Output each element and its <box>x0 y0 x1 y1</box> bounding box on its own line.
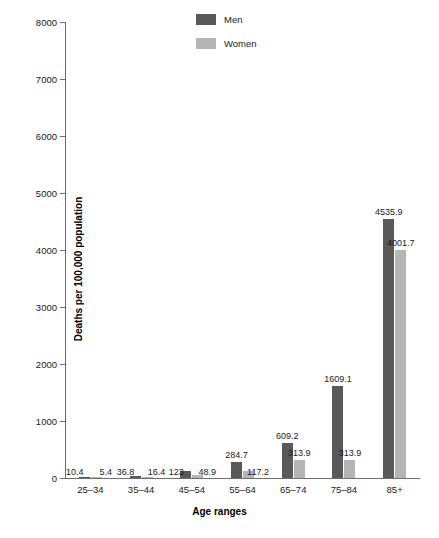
y-axis-tick <box>60 79 65 80</box>
bar-value-label: 123 <box>169 467 184 477</box>
bar-value-label: 284.7 <box>225 450 248 460</box>
y-axis-tick-label: 2000 <box>36 359 57 370</box>
bar-value-label: 117.2 <box>247 467 269 477</box>
x-axis-tick-label: 85+ <box>387 484 403 495</box>
x-axis-title: Age ranges <box>0 506 439 517</box>
bar-value-label: 313.9 <box>339 448 362 458</box>
bar-value-label: 313.9 <box>288 448 311 458</box>
bar-value-label: 4535.9 <box>375 207 403 217</box>
y-axis-line <box>65 22 66 478</box>
x-axis-line <box>65 478 420 479</box>
y-axis-tick <box>60 250 65 251</box>
y-axis-tick <box>60 193 65 194</box>
x-axis-tick-label: 55–64 <box>229 484 255 495</box>
bar-group: 10.45.4 <box>79 22 102 478</box>
y-axis-tick-label: 8000 <box>36 17 57 28</box>
y-axis-tick-label: 5000 <box>36 188 57 199</box>
bar-group: 4535.94001.7 <box>383 22 406 478</box>
bar-value-label: 16.4 <box>148 467 166 477</box>
y-axis-tick <box>60 421 65 422</box>
x-axis-tick-label: 65–74 <box>280 484 306 495</box>
x-axis-tick-label: 25–34 <box>77 484 103 495</box>
bar-value-label: 5.4 <box>100 467 113 477</box>
bar-chart: Men Women Deaths per 100,000 population … <box>0 0 439 538</box>
bar-value-label: 36.8 <box>117 467 135 477</box>
bar-value-label: 4001.7 <box>387 238 415 248</box>
bar-group: 36.816.4 <box>130 22 153 478</box>
bar-value-label: 1609.1 <box>324 374 352 384</box>
x-axis-tick-label: 45–54 <box>179 484 205 495</box>
bar-group: 1609.1313.9 <box>332 22 355 478</box>
bar-women <box>294 460 305 478</box>
bar-men <box>231 462 242 478</box>
bar-women <box>395 250 406 478</box>
x-axis-tick-label: 35–44 <box>128 484 154 495</box>
plot-area: 010002000300040005000600070008000 10.45.… <box>65 22 420 478</box>
y-axis-tick <box>60 22 65 23</box>
bar-group: 609.2313.9 <box>282 22 305 478</box>
y-axis-tick-label: 1000 <box>36 416 57 427</box>
bar-group: 284.7117.2 <box>231 22 254 478</box>
bar-men <box>383 219 394 478</box>
y-axis-tick-label: 7000 <box>36 74 57 85</box>
y-axis-tick-label: 6000 <box>36 131 57 142</box>
y-axis-tick <box>60 307 65 308</box>
y-axis-tick-label: 4000 <box>36 245 57 256</box>
bar-value-label: 10.4 <box>66 467 84 477</box>
y-axis-tick <box>60 136 65 137</box>
y-axis-tick-label: 3000 <box>36 302 57 313</box>
bar-value-label: 48.9 <box>199 467 217 477</box>
bar-women <box>344 460 355 478</box>
y-axis-tick <box>60 478 65 479</box>
bar-men <box>332 386 343 478</box>
bar-value-label: 609.2 <box>276 431 299 441</box>
x-axis-tick-label: 75–84 <box>331 484 357 495</box>
y-axis-tick <box>60 364 65 365</box>
bar-group: 12348.9 <box>180 22 203 478</box>
y-axis-tick-label: 0 <box>52 473 57 484</box>
